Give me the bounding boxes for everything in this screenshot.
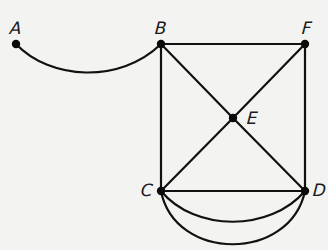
edge-c-d (161, 191, 305, 244)
node-label-a: A (9, 20, 22, 37)
node-c (157, 187, 165, 195)
edge-f-e (233, 44, 305, 118)
node-label-c: C (140, 182, 153, 199)
node-e (229, 114, 237, 122)
edge-c-d (161, 191, 305, 222)
edge-e-d (233, 118, 305, 191)
edge-e-c (161, 118, 233, 191)
node-label-b: B (154, 20, 167, 37)
edge-b-e (161, 44, 233, 118)
node-b (157, 40, 165, 48)
edge-a-b (16, 44, 161, 73)
graph-diagram: ABFECD (0, 0, 328, 250)
edges-layer (16, 44, 305, 244)
node-f (301, 40, 309, 48)
node-label-d: D (312, 182, 326, 199)
node-label-f: F (301, 20, 312, 37)
node-a (12, 40, 20, 48)
node-d (301, 187, 309, 195)
node-label-e: E (246, 110, 258, 127)
